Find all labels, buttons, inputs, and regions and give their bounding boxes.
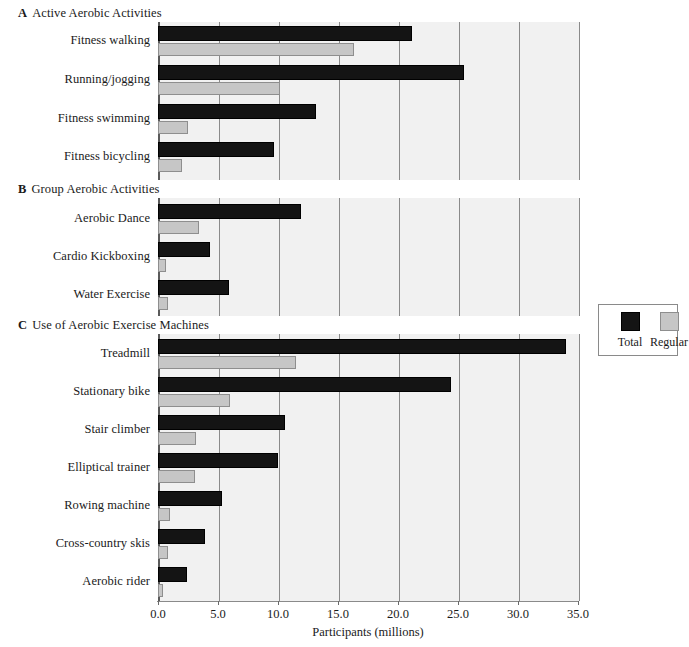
section-title: Use of Aerobic Exercise Machines [32, 318, 209, 332]
gridline-20 [399, 334, 400, 601]
category-label: Cross-country skis [0, 537, 150, 550]
gridline-25 [459, 198, 460, 316]
bar-regular [158, 43, 354, 56]
gridline-20 [399, 198, 400, 316]
x-tick-label: 25.0 [428, 607, 488, 622]
bar-total [158, 26, 412, 41]
gridline-30 [519, 22, 520, 180]
legend-label: Total [610, 335, 650, 350]
bar-regular [158, 159, 182, 172]
gridline-30 [519, 334, 520, 601]
category-label: Fitness bicycling [0, 150, 150, 163]
bar-regular [158, 394, 230, 407]
gridline-10 [279, 334, 280, 601]
legend-item-regular: Regular [649, 312, 689, 350]
bar-regular [158, 259, 166, 272]
tick-mark-15 [338, 601, 339, 605]
gridline-15 [339, 334, 340, 601]
tick-mark-20 [398, 601, 399, 605]
category-label: Fitness walking [0, 34, 150, 47]
tick-mark-35 [578, 601, 579, 605]
category-label: Stationary bike [0, 385, 150, 398]
section-letter: A [18, 6, 27, 20]
bar-total [158, 529, 205, 544]
gridline-25 [459, 22, 460, 180]
category-label: Fitness swimming [0, 112, 150, 125]
bar-regular [158, 221, 199, 234]
x-tick-label: 10.0 [248, 607, 308, 622]
category-label: Water Exercise [0, 288, 150, 301]
x-axis-title: Participants (millions) [118, 625, 618, 640]
bar-regular [158, 508, 170, 521]
category-label: Running/jogging [0, 73, 150, 86]
category-label: Aerobic Dance [0, 212, 150, 225]
x-tick-label: 0.0 [128, 607, 188, 622]
bar-total [158, 567, 187, 582]
gridline-35 [579, 22, 580, 180]
category-label: Stair climber [0, 423, 150, 436]
section-header-b: BGroup Aerobic Activities [18, 182, 160, 197]
bar-regular [158, 584, 163, 597]
x-tick-label: 35.0 [548, 607, 608, 622]
bar-total [158, 491, 222, 506]
x-tick-label: 5.0 [188, 607, 248, 622]
bar-total [158, 142, 274, 157]
bar-total [158, 339, 566, 354]
legend-item-total: Total [610, 312, 650, 350]
section-letter: C [18, 318, 27, 332]
bar-regular [158, 297, 168, 310]
section-title: Active Aerobic Activities [32, 6, 162, 20]
bar-total [158, 280, 229, 295]
tick-mark-10 [278, 601, 279, 605]
gridline-35 [579, 198, 580, 316]
bar-total [158, 204, 301, 219]
gridline-30 [519, 198, 520, 316]
x-tick-label: 15.0 [308, 607, 368, 622]
bar-total [158, 415, 285, 430]
legend-label: Regular [649, 335, 689, 350]
x-tick-label: 20.0 [368, 607, 428, 622]
x-tick-label: 30.0 [488, 607, 548, 622]
bar-regular [158, 470, 195, 483]
tick-mark-5 [218, 601, 219, 605]
bar-regular [158, 121, 188, 134]
category-label: Elliptical trainer [0, 461, 150, 474]
category-label: Aerobic rider [0, 575, 150, 588]
section-header-a: AActive Aerobic Activities [18, 6, 162, 21]
gridline-15 [339, 198, 340, 316]
bar-total [158, 377, 451, 392]
x-axis-line [157, 601, 579, 602]
bar-regular [158, 546, 168, 559]
section-title: Group Aerobic Activities [31, 182, 159, 196]
bar-regular [158, 356, 296, 369]
section-letter: B [18, 182, 26, 196]
tick-mark-25 [458, 601, 459, 605]
category-label: Rowing machine [0, 499, 150, 512]
category-label: Cardio Kickboxing [0, 250, 150, 263]
bar-regular [158, 432, 196, 445]
category-label: Treadmill [0, 347, 150, 360]
bar-total [158, 453, 278, 468]
gridline-20 [399, 22, 400, 180]
legend-swatch-regular-icon [660, 312, 679, 331]
bar-total [158, 104, 316, 119]
bar-regular [158, 82, 280, 95]
gridline-35 [579, 334, 580, 601]
legend-swatch-total-icon [621, 312, 640, 331]
bar-total [158, 242, 210, 257]
bar-total [158, 65, 464, 80]
tick-mark-0 [158, 601, 159, 605]
gridline-25 [459, 334, 460, 601]
section-header-c: CUse of Aerobic Exercise Machines [18, 318, 209, 333]
tick-mark-30 [518, 601, 519, 605]
